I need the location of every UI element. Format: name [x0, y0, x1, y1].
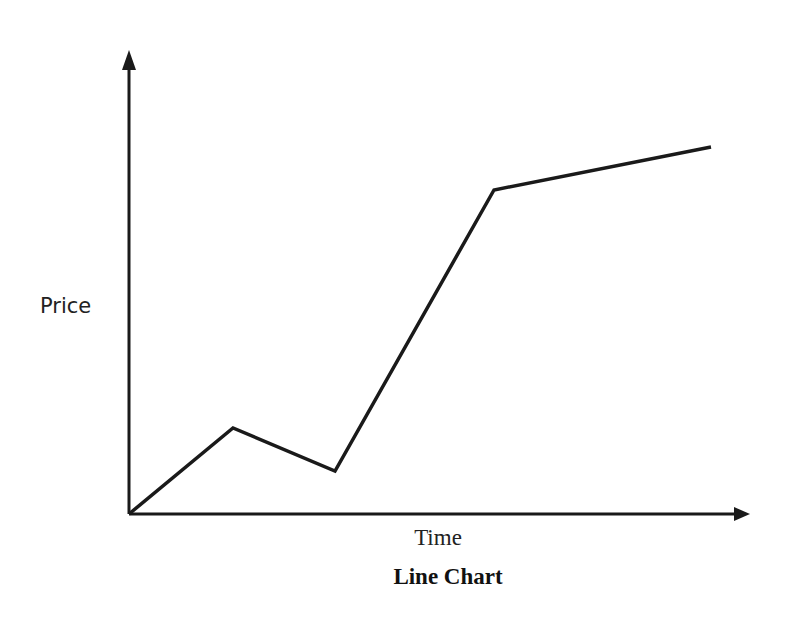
price-line-series — [129, 147, 711, 514]
x-axis-label: Time — [414, 525, 462, 550]
y-axis-arrow-icon — [122, 50, 136, 70]
x-axis-arrow-icon — [734, 507, 750, 521]
line-chart: Price Time Line Chart — [0, 0, 788, 620]
chart-title: Line Chart — [393, 564, 503, 589]
y-axis-label: Price — [40, 294, 91, 318]
